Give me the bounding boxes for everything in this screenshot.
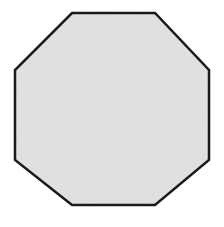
figure-canvas xyxy=(0,0,224,227)
shape-figure-svg xyxy=(0,0,224,227)
